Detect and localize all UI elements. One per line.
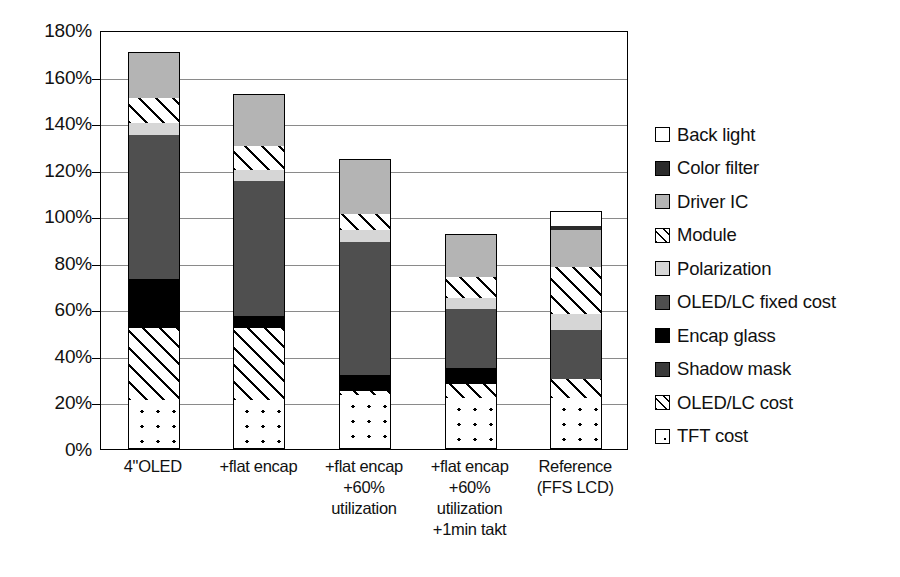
legend-label: Shadow mask [677,359,791,379]
bar-segment [128,52,180,97]
legend-item[interactable]: OLED/LC fixed cost [655,286,895,320]
bar-segment [128,122,180,135]
y-tickmark [92,218,101,219]
bar-segment [550,229,602,267]
bar-column [312,32,418,449]
x-tick-label-line: utilization [411,498,529,519]
bar-segment [233,169,285,182]
bar-segment [445,276,497,298]
y-tick-label: 20% [22,393,92,412]
bar-segment [550,397,602,449]
stacked-bar[interactable] [339,30,391,449]
bar-column [101,32,207,449]
legend-label: Back light [677,125,755,145]
bar-segment [550,329,602,379]
y-tick-label: 100% [22,207,92,226]
legend-label: Color filter [677,158,759,178]
stacked-bar[interactable] [128,30,180,449]
y-tickmark [92,125,101,126]
bar-segment [128,134,180,279]
legend-item[interactable]: Driver IC [655,185,895,219]
bar-segment [233,180,285,316]
y-tick-label: 180% [22,21,92,40]
bar-segment [339,159,391,214]
y-tickmark [92,79,101,80]
x-tick-label-line: +60% [411,477,529,498]
bar-segment [445,234,497,277]
bar-segment [445,297,497,310]
x-tick-label: 4"OLED [94,456,212,477]
bar-segment [233,145,285,169]
legend-swatch-icon [655,295,670,310]
bar-segment [550,211,602,226]
legend-label: Polarization [677,259,771,279]
bar-segment [445,367,497,384]
legend-label: Encap glass [677,326,776,346]
legend-swatch-icon [655,328,670,343]
x-axis: 4"OLED+flat encap+flat encap+60%utilizat… [100,456,628,576]
bar-segment [445,383,497,398]
stacked-bar-chart: 180%160%140%120%100%80%60%40%20%0% 4"OLE… [0,0,900,577]
x-tick-label-line: utilization [305,498,423,519]
legend-swatch-icon [655,362,670,377]
bar-segment [128,327,180,400]
bar-segment [445,397,497,449]
legend-item[interactable]: Encap glass [655,319,895,353]
y-tickmark [92,358,101,359]
x-tick-label-line: +flat encap [411,456,529,477]
legend-label: TFT cost [677,426,748,446]
y-tick-label: 80% [22,254,92,273]
x-tick-label-line: +60% [305,477,423,498]
bar-segment [550,378,602,398]
bars-layer [101,32,627,449]
plot-area [100,31,628,450]
x-tick-label-line: (FFS LCD) [516,477,634,498]
y-tick-label: 0% [22,440,92,459]
bar-column [207,32,313,449]
bar-segment [233,399,285,449]
legend: Back lightColor filterDriver ICModulePol… [655,118,895,453]
bar-segment [339,374,391,391]
bar-segment [128,97,180,124]
legend-item[interactable]: TFT cost [655,420,895,454]
legend-swatch-icon [655,194,670,209]
legend-item[interactable]: Shadow mask [655,353,895,387]
bar-segment [445,308,497,367]
y-tick-label: 140% [22,114,92,133]
stacked-bar[interactable] [445,30,497,449]
y-tick-label: 40% [22,347,92,366]
legend-item[interactable]: Back light [655,118,895,152]
legend-swatch-icon [655,395,670,410]
x-tick-label-line: +1min takt [411,519,529,540]
legend-swatch-icon [655,228,670,243]
legend-swatch-icon [655,429,670,444]
y-tickmark [92,404,101,405]
legend-swatch-icon [655,261,670,276]
legend-label: Module [677,225,736,245]
y-tick-label: 160% [22,68,92,87]
legend-item[interactable]: Color filter [655,152,895,186]
stacked-bar[interactable] [233,30,285,449]
legend-item[interactable]: Polarization [655,252,895,286]
x-tick-label-line: +flat encap [200,456,318,477]
legend-swatch-icon [655,161,670,176]
bar-segment [339,229,391,242]
bar-segment [339,394,391,449]
x-tick-label: +flat encap [200,456,318,477]
legend-swatch-icon [655,127,670,142]
y-tickmark [92,311,101,312]
x-tick-label: Reference(FFS LCD) [516,456,634,498]
y-tickmark [92,172,101,173]
y-axis: 180%160%140%120%100%80%60%40%20%0% [20,0,92,577]
legend-item[interactable]: OLED/LC cost [655,386,895,420]
bar-column [523,32,629,449]
x-tick-label: +flat encap+60%utilization [305,456,423,519]
x-tick-label: +flat encap+60%utilization+1min takt [411,456,529,540]
y-tickmark [92,265,101,266]
bar-segment [128,399,180,449]
y-tick-label: 60% [22,300,92,319]
bar-column [418,32,524,449]
stacked-bar[interactable] [550,30,602,449]
legend-item[interactable]: Module [655,219,895,253]
x-tick-label-line: 4"OLED [94,456,212,477]
